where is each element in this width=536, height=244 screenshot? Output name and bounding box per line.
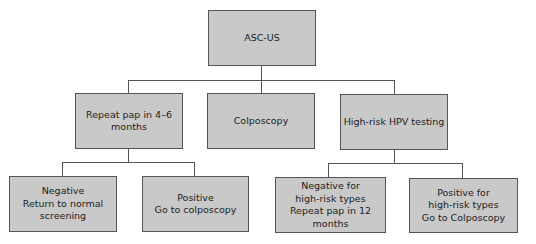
- connector-to-negative-hr: [328, 163, 329, 177]
- node-negative: Negative Return to normal screening: [9, 176, 117, 232]
- node-hpv-testing: High-risk HPV testing: [340, 94, 448, 150]
- connector-to-colposcopy: [261, 80, 262, 93]
- node-colposcopy: Colposcopy: [207, 93, 315, 149]
- node-positive: Positive Go to colposcopy: [142, 176, 249, 232]
- node-repeat-pap: Repeat pap in 4–6 months: [75, 93, 183, 149]
- node-positive-high-risk: Positive for high-risk types Go to Colpo…: [409, 178, 518, 233]
- connector-hpv-down: [394, 149, 395, 163]
- connector-root-down: [261, 65, 262, 80]
- node-asc-us: ASC-US: [208, 10, 316, 66]
- connector-to-positive-hr: [462, 163, 463, 178]
- node-negative-high-risk: Negative for high-risk types Repeat pap …: [275, 177, 386, 233]
- connector-left-bar: [62, 162, 195, 163]
- connector-repeat-pap-down: [128, 148, 129, 162]
- connector-to-negative: [62, 162, 63, 176]
- connector-to-positive: [194, 162, 195, 176]
- connector-to-repeat-pap: [128, 80, 129, 93]
- connector-right-bar: [328, 163, 463, 164]
- connector-to-hpv-testing: [394, 80, 395, 94]
